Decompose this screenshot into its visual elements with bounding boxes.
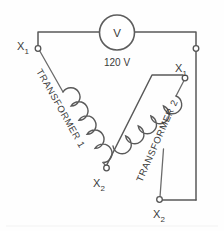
wire-left-x1-to-voltmeter (38, 32, 99, 46)
terminal-label-subscript: 2 (161, 215, 166, 224)
terminal-node-transformer-1-x1[interactable] (35, 46, 41, 52)
transformer-2-lead-top (176, 81, 184, 97)
terminal-label-transformer-1-x1: X 1 (17, 40, 30, 56)
terminal-label-subscript: 1 (183, 69, 188, 78)
terminal-label-transformer-1-x2: X 2 (93, 177, 106, 193)
terminal-node-right-bus[interactable] (193, 46, 199, 52)
voltmeter-reading-label: 120 V (104, 57, 130, 68)
transformer-1-label: TRANSFORMER 1 (34, 67, 87, 150)
transformer-2[interactable]: TRANSFORMER 2 (113, 81, 184, 198)
terminal-label-transformer-2-x2: X 2 (153, 208, 166, 224)
terminal-label-subscript: 1 (25, 47, 30, 56)
terminal-node-transformer-1-x2[interactable] (104, 165, 110, 171)
circuit-schematic-canvas: V 120 V TRANSFORMER 1 (0, 0, 224, 231)
voltmeter[interactable]: V (100, 15, 135, 50)
transformer-2-label: TRANSFORMER 2 (134, 98, 180, 184)
terminal-node-transformer-2-x2[interactable] (157, 197, 163, 203)
transformer-1[interactable]: TRANSFORMER 1 (34, 51, 112, 167)
transformer-2-lead-bottom (160, 149, 164, 197)
terminal-label-subscript: 2 (101, 184, 106, 193)
transformer-circuit-diagram: V 120 V TRANSFORMER 1 (0, 0, 224, 231)
voltmeter-symbol: V (113, 27, 121, 39)
